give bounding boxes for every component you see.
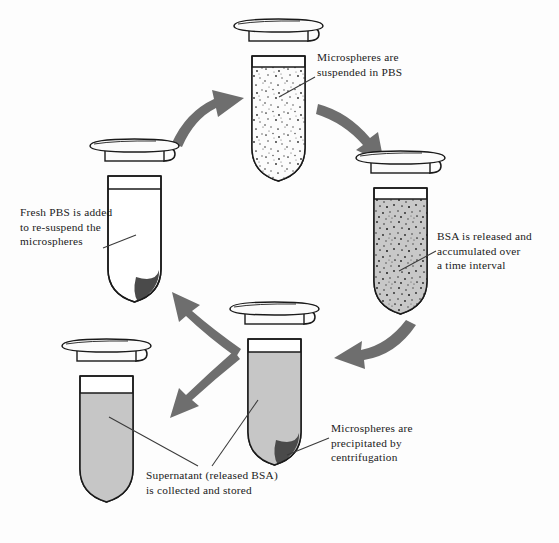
caption-microspheres-precipitated: Microspheres are precipitated by centrif… — [331, 421, 413, 465]
caption-supernatant-collected: Supernatant (released BSA) is collected … — [146, 468, 278, 497]
arrow-left-to-top — [172, 90, 244, 147]
arrow-right-to-bottomcenter — [334, 320, 416, 369]
tube-right[interactable] — [356, 151, 445, 319]
arrow-bottomcenter-to-bottomleft — [170, 351, 240, 418]
tube-bottom-left[interactable] — [62, 339, 151, 513]
tube-bottom-left-liquid — [78, 393, 136, 513]
tube-top[interactable] — [234, 19, 323, 187]
arrow-bottomcenter-to-left — [172, 292, 241, 357]
caption-microspheres-suspended: Microspheres are suspended in PBS — [317, 50, 402, 79]
tube-bottom-center[interactable] — [230, 302, 319, 472]
diagram-canvas: Microspheres are suspended in PBS BSA is… — [0, 0, 559, 543]
caption-bsa-released: BSA is released and accumulated over a t… — [437, 229, 532, 273]
caption-fresh-pbs-added: Fresh PBS is added to re-suspend the mic… — [20, 205, 112, 249]
